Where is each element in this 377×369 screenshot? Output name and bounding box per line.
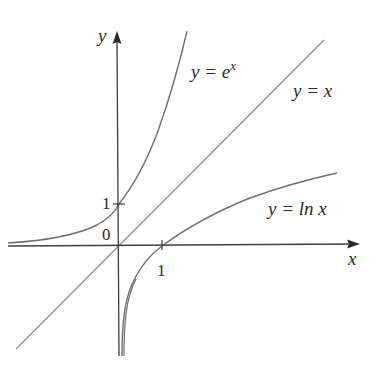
log-curve-label: y = ln x xyxy=(266,198,327,219)
x-axis xyxy=(8,244,352,246)
exp-curve xyxy=(8,31,187,243)
exp-label-main: y = e xyxy=(189,61,230,82)
y-axis-label: y xyxy=(96,25,107,46)
identity-line xyxy=(16,40,324,349)
y-axis xyxy=(117,40,119,356)
identity-line-label: y = x xyxy=(291,80,333,101)
x-axis-label: x xyxy=(347,248,357,269)
y-tick-1-label: 1 xyxy=(102,194,111,213)
exp-label-superscript: x xyxy=(229,58,236,73)
exp-curve-label: y = ex xyxy=(189,58,236,82)
x-tick-1-label: 1 xyxy=(157,261,166,280)
function-graph: y x 0 1 1 y = ex y = x y = ln x xyxy=(0,0,377,369)
origin-label: 0 xyxy=(102,225,111,244)
